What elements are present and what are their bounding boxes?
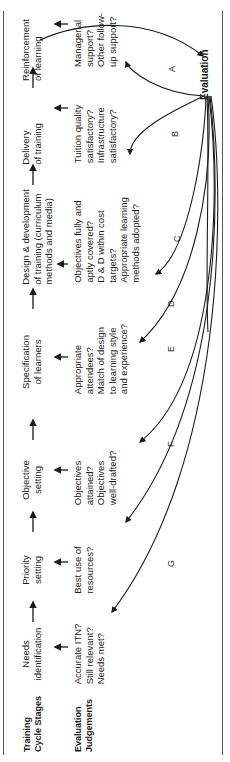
curve-label-e: E [166,346,176,352]
evaluation-curves [40,25,218,612]
curve-label-b: B [170,131,180,137]
curve-priority [126,96,215,522]
curve-label-g: G [166,560,176,567]
judgement-to-stage-arrows [55,24,68,647]
arrows-layer: A B C D E F G [0,0,230,762]
curve-a [126,62,204,96]
curve-label-f: F [166,441,176,447]
curve-d [207,96,208,332]
curve-b [130,96,204,154]
training-cycle-evaluation-diagram: Training Cycle Stages Evaluation Judgeme… [0,0,230,762]
curve-label-d: D [166,300,176,307]
curve-f [140,96,214,442]
curve-label-c: C [172,235,182,242]
curve-c [156,96,206,274]
curve-g [112,96,218,612]
curve-reinforcement-to-evaluation [40,25,203,56]
curve-label-a: A [167,66,177,72]
